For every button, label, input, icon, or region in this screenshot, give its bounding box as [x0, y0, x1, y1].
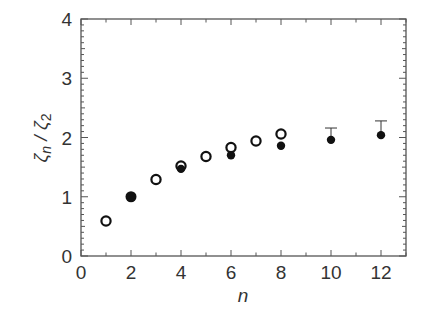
y-tick-label: 2	[61, 128, 72, 149]
open-data-point	[201, 152, 210, 161]
filled-data-point	[227, 151, 235, 159]
y-tick-label: 3	[61, 68, 72, 89]
x-tick-label: 0	[76, 262, 87, 283]
y-tick-label: 4	[61, 9, 72, 30]
open-data-point	[226, 143, 235, 152]
svg-text:ζn / ζ2: ζn / ζ2	[30, 113, 54, 162]
y-tick-label: 1	[61, 187, 72, 208]
open-data-point	[101, 216, 110, 225]
open-data-point	[151, 175, 160, 184]
x-tick-label: 6	[226, 262, 237, 283]
y-axis-label: ζn / ζ2	[30, 113, 54, 162]
scatter-chart: 02468101201234 n ζn / ζ2	[0, 0, 427, 320]
filled-data-point	[177, 165, 185, 173]
y-tick-label: 0	[61, 246, 72, 267]
open-data-point	[276, 129, 285, 138]
data-points	[101, 121, 387, 226]
filled-data-point	[327, 136, 335, 144]
x-tick-label: 8	[276, 262, 287, 283]
open-data-point	[251, 136, 260, 145]
x-tick-label: 10	[320, 262, 341, 283]
x-tick-label: 2	[126, 262, 137, 283]
x-tick-label: 4	[176, 262, 187, 283]
filled-data-point	[126, 191, 137, 202]
x-axis-label: n	[238, 285, 249, 306]
filled-data-point	[377, 131, 385, 139]
axis-ticks	[81, 19, 406, 256]
plot-frame	[81, 19, 406, 256]
x-tick-label: 12	[370, 262, 391, 283]
filled-data-point	[277, 142, 285, 150]
